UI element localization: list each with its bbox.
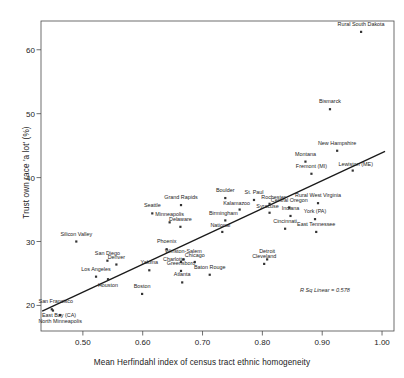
data-point-label: Cincinnati — [273, 219, 297, 224]
x-tick-label: 0.90 — [314, 338, 330, 347]
data-points-group — [51, 31, 363, 316]
data-point-label: Birmingham — [209, 211, 238, 216]
data-point-marker — [253, 199, 255, 201]
x-tick-label: 0.50 — [75, 338, 91, 347]
data-point-label: Silicon Valley — [60, 232, 92, 237]
data-point-label: Fremont (MI) — [296, 164, 327, 169]
x-tick-label: 1.00 — [374, 338, 390, 347]
data-point-marker — [141, 293, 143, 295]
data-point-label: Montana — [295, 152, 316, 157]
data-point-marker — [151, 212, 153, 214]
data-point-label: National — [210, 223, 230, 228]
y-tick-label: 60 — [11, 45, 35, 54]
data-point-label: East Tennessee — [297, 222, 335, 227]
data-point-marker — [179, 226, 181, 228]
data-point-label: North Minneapolis — [38, 319, 81, 324]
data-point-marker — [95, 276, 97, 278]
data-point-marker — [180, 204, 182, 206]
data-point-marker — [315, 231, 317, 233]
data-point-marker — [268, 212, 270, 214]
data-point-marker — [360, 31, 362, 33]
data-point-marker — [284, 228, 286, 230]
data-point-marker — [314, 218, 316, 220]
data-point-label: Syracuse — [256, 204, 278, 209]
x-tick-label: 0.60 — [135, 338, 151, 347]
data-point-label: York (PA) — [304, 209, 326, 214]
y-axis-title: Trust own race 'a lot' (%) — [22, 98, 31, 248]
plot-frame — [41, 21, 394, 331]
data-point-marker — [263, 263, 265, 265]
data-point-marker — [148, 269, 150, 271]
data-point-label: Houston — [98, 283, 118, 288]
data-point-label: Rural South Dakota — [338, 22, 385, 27]
x-axis-title: Mean Herfindahl index of census tract et… — [0, 358, 404, 367]
data-point-label: San Francisco — [39, 299, 73, 304]
data-point-label: Atlanta — [174, 272, 191, 277]
data-point-marker — [329, 108, 331, 110]
data-point-marker — [317, 202, 319, 204]
data-point-marker — [336, 150, 338, 152]
x-tick-label: 0.70 — [195, 338, 211, 347]
y-tick-label: 20 — [11, 301, 35, 310]
scatter-plot-figure: 0.500.600.700.800.901.00 2030405060 Rura… — [0, 0, 404, 378]
data-point-label: Indiana — [282, 206, 300, 211]
data-point-label: Phoenix — [157, 239, 176, 244]
data-point-marker — [107, 278, 109, 280]
data-point-marker — [221, 231, 223, 233]
data-point-marker — [239, 208, 241, 210]
data-point-label: Boston — [134, 284, 151, 289]
data-point-label: Boulder — [216, 188, 235, 193]
data-point-label: Kalamazoo — [223, 201, 250, 206]
data-point-label: Bismarck — [319, 99, 341, 104]
data-point-marker — [181, 281, 183, 283]
data-point-label: Greensboro — [167, 261, 195, 266]
data-point-label: Lewiston (ME) — [338, 162, 372, 167]
data-point-label: Chicago — [185, 253, 205, 258]
r-squared-annotation: R Sq Linear = 0.578 — [300, 287, 350, 293]
data-point-label: Cleveland — [252, 254, 276, 259]
data-point-label: Yakima — [140, 260, 158, 265]
data-point-marker — [75, 240, 77, 242]
data-point-label: Grand Rapids — [164, 195, 197, 200]
data-point-label: Los Angeles — [81, 267, 110, 272]
data-point-label: Delaware — [169, 217, 192, 222]
data-point-marker — [115, 263, 117, 265]
data-point-marker — [289, 215, 291, 217]
data-point-marker — [352, 169, 354, 171]
x-tick-label: 0.80 — [255, 338, 271, 347]
data-point-marker — [209, 274, 211, 276]
data-point-label: Baton Rouge — [194, 265, 225, 270]
data-point-label: Denver — [108, 255, 125, 260]
data-point-marker — [310, 173, 312, 175]
data-point-label: New Hampshire — [318, 141, 356, 146]
data-point-label: Seattle — [144, 203, 161, 208]
